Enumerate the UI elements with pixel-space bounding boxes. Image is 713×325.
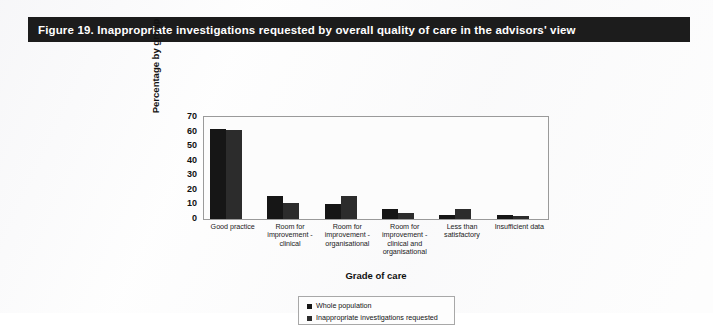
x-axis-title: Grade of care [203, 270, 549, 281]
bar[interactable] [267, 196, 283, 219]
bar-group [261, 117, 318, 219]
bar[interactable] [497, 215, 513, 219]
figure-title: Figure 19. Inappropriate investigations … [28, 24, 576, 36]
bar[interactable] [341, 196, 357, 219]
x-axis-tick-label: Insufficient data [482, 223, 557, 231]
legend-swatch-icon [307, 304, 312, 309]
chart-canvas: Percentage by group 010203040506070 Good… [0, 46, 713, 313]
bar-group [376, 117, 433, 219]
bar[interactable] [325, 204, 341, 219]
figure-title-bar: Figure 19. Inappropriate investigations … [28, 17, 690, 42]
y-axis-tick-label: 10 [163, 199, 197, 208]
y-axis-tick-label: 50 [163, 141, 197, 150]
bar-group [204, 117, 261, 219]
y-axis-tick-label: 60 [163, 126, 197, 135]
bar[interactable] [439, 215, 455, 219]
bar[interactable] [382, 209, 398, 219]
x-axis-tick-labels: Good practiceRoom forimprovement -clinic… [204, 223, 548, 269]
y-axis-tick-labels: 010203040506070 [163, 112, 197, 220]
bar[interactable] [398, 213, 414, 219]
bar[interactable] [455, 209, 471, 219]
legend-entry[interactable]: Whole population [307, 301, 454, 311]
y-axis-title: Percentage by group [150, 16, 162, 116]
bar-group [491, 117, 548, 219]
bar[interactable] [283, 203, 299, 219]
y-axis-tick-label: 70 [163, 112, 197, 121]
legend-entry[interactable]: Inappropriate investigations requested [307, 313, 454, 323]
bar[interactable] [226, 130, 242, 219]
y-axis-tick-label: 20 [163, 184, 197, 193]
bars-layer [204, 117, 548, 219]
bar-group [319, 117, 376, 219]
y-axis-tick-label: 30 [163, 170, 197, 179]
chart-legend: Whole populationInappropriate investigat… [298, 296, 455, 325]
legend-label: Inappropriate investigations requested [316, 314, 438, 322]
y-axis-tick-label: 40 [163, 155, 197, 164]
y-axis-tick-label: 0 [163, 214, 197, 223]
bar[interactable] [210, 129, 226, 219]
bar[interactable] [513, 216, 529, 219]
bar-group [433, 117, 490, 219]
legend-swatch-icon [307, 316, 312, 321]
legend-label: Whole population [316, 302, 372, 310]
